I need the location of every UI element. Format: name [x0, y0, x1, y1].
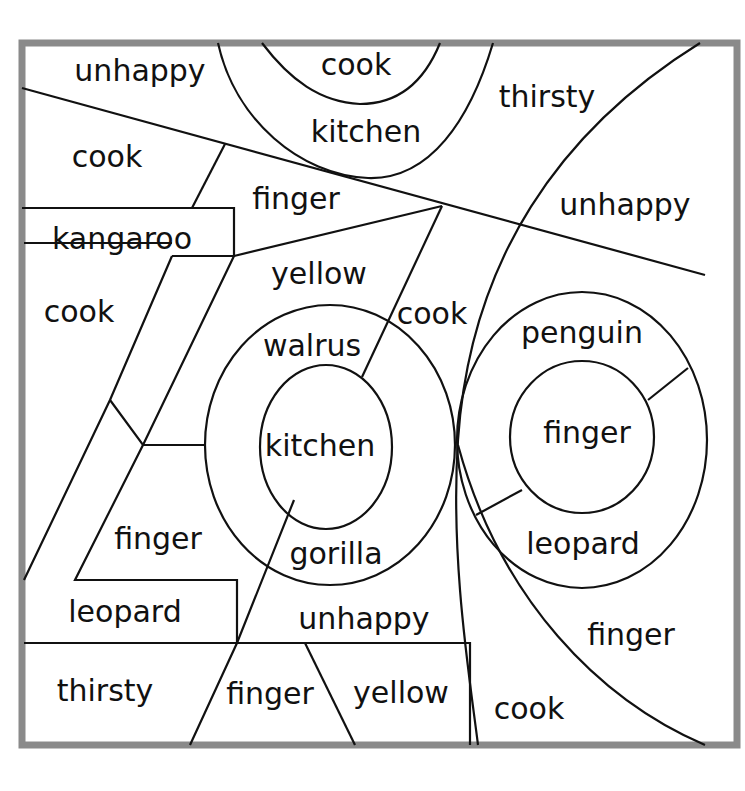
- region-label: cook: [44, 294, 115, 329]
- region-label: finger: [252, 181, 340, 216]
- region-label: finger: [114, 521, 202, 556]
- region-label: penguin: [521, 315, 643, 350]
- region-label: yellow: [353, 675, 449, 710]
- region-label: leopard: [526, 526, 639, 561]
- region-label: kitchen: [265, 428, 375, 463]
- region-label: unhappy: [298, 601, 429, 636]
- region-label: cook: [397, 296, 468, 331]
- region-label: kitchen: [311, 114, 421, 149]
- region-label: cook: [321, 47, 392, 82]
- region-label: unhappy: [74, 53, 205, 88]
- region-label: kangaroo: [52, 221, 192, 256]
- region-label: finger: [226, 676, 314, 711]
- region-label: finger: [543, 415, 631, 450]
- region-label: cook: [72, 139, 143, 174]
- region-label: unhappy: [559, 187, 690, 222]
- zoo-color-by-word-puzzle: unhappy cook kitchen thirsty cook finger…: [0, 0, 745, 791]
- region-label: cook: [494, 691, 565, 726]
- region-label: gorilla: [289, 536, 382, 571]
- region-label: walrus: [263, 328, 361, 363]
- region-label: thirsty: [57, 673, 154, 708]
- region-label: yellow: [271, 256, 367, 291]
- region-label: thirsty: [499, 79, 596, 114]
- region-label: finger: [587, 617, 675, 652]
- region-label: leopard: [68, 594, 181, 629]
